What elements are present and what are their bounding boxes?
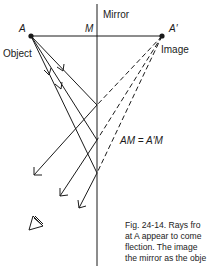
caption-line: flection. The image [125,242,206,253]
caption-line: Fig. 24-14. Rays fro [125,220,206,231]
eye-icon [29,216,43,230]
mirror-label: Mirror [103,9,129,20]
incident-rays [31,36,97,173]
object-label: Object [3,48,32,59]
virtual-rays [97,36,162,173]
reflected-rays [34,105,97,208]
caption-line: the mirror as the obje [125,253,206,264]
reflected-arrowheads [34,167,86,208]
point-a-prime-label: A′ [169,23,178,34]
figure-caption: Fig. 24-14. Rays fro at A appear to come… [125,220,206,264]
equation-label: AM = A′M [120,135,163,146]
point-a-label: A [19,23,26,34]
image-label: Image [161,44,189,55]
point-m-label: M [85,23,93,34]
caption-line: at A appear to come [125,231,206,242]
